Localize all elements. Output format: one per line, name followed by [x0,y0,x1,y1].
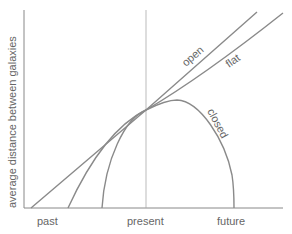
x-label-past: past [37,215,58,227]
y-axis-label: average distance between galaxies [6,36,18,208]
x-label-present: present [127,215,164,227]
x-label-future: future [217,215,245,227]
universe-expansion-diagram: open flat closed past present future ave… [0,0,292,234]
open-curve [31,12,257,208]
open-label: open [179,43,205,68]
flat-curve [68,13,283,208]
flat-label: flat [223,51,242,69]
